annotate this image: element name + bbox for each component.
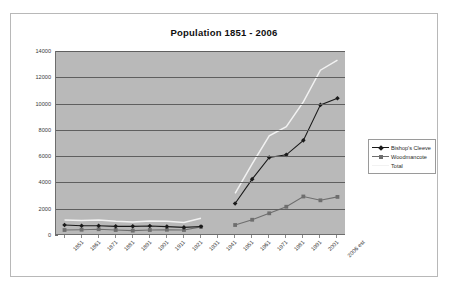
x-axis-tick-label: 1911 — [173, 239, 186, 252]
gridline — [56, 156, 345, 157]
legend-item[interactable]: Woodmancote — [372, 152, 431, 161]
y-axis-tick-label: 6000 — [39, 153, 51, 159]
x-axis-tick-label: 1981 — [293, 239, 306, 252]
y-axis-tick-label: 12000 — [35, 74, 51, 80]
legend-label: Woodmancote — [389, 154, 427, 160]
x-axis-tick-label: 1901 — [156, 239, 169, 252]
legend-item[interactable]: Total — [372, 161, 431, 170]
y-axis-labels: 02000400060008000100001200014000 — [17, 51, 51, 235]
x-axis-tick-label: 1931 — [208, 239, 221, 252]
y-axis-tick-label: 2000 — [39, 206, 51, 212]
x-axis-tick-mark — [98, 235, 99, 238]
gridline — [56, 182, 345, 183]
y-axis-tick-label: 0 — [48, 232, 51, 238]
chart-legend: Bishop's CleeveWoodmancoteTotal — [368, 139, 436, 174]
x-axis-tick-label: 1881 — [122, 239, 135, 252]
legend-label: Total — [389, 163, 403, 169]
y-axis-tick-label: 10000 — [35, 101, 51, 107]
x-axis-labels: 1851186118711881189119011911192119311941… — [55, 239, 345, 289]
x-axis-tick-label: 1961 — [259, 239, 272, 252]
x-axis-tick-mark — [132, 235, 133, 238]
y-axis-tick-label: 14000 — [35, 48, 51, 54]
x-axis-tick-label: 1941 — [225, 239, 238, 252]
legend-label: Bishop's Cleeve — [389, 145, 431, 151]
x-axis-tick-label: 1971 — [276, 239, 289, 252]
x-axis-tick-mark — [302, 235, 303, 238]
series-layer — [56, 51, 346, 235]
x-axis-tick-label: 1921 — [191, 239, 204, 252]
x-axis-tick-label: 1861 — [88, 239, 101, 252]
x-axis-tick-mark — [64, 235, 65, 238]
series-total — [65, 60, 338, 222]
x-axis-tick-mark — [336, 235, 337, 238]
x-axis-tick-mark — [234, 235, 235, 238]
y-axis-tick-label: 4000 — [39, 179, 51, 185]
x-axis-tick-label: 1951 — [242, 239, 255, 252]
x-axis-tick-mark — [285, 235, 286, 238]
x-axis-tick-mark — [200, 235, 201, 238]
y-axis-tick-label: 8000 — [39, 127, 51, 133]
legend-item[interactable]: Bishop's Cleeve — [372, 143, 431, 152]
x-axis-tick-label: 1851 — [71, 239, 84, 252]
x-axis-tick-mark — [183, 235, 184, 238]
x-axis-tick-label: 2001 — [327, 239, 340, 252]
legend-key-square-icon — [372, 152, 389, 161]
x-axis-tick-label: 1871 — [105, 239, 118, 252]
gridline — [56, 51, 345, 52]
x-axis-tick-mark — [251, 235, 252, 238]
x-axis-tick-label: 1891 — [139, 239, 152, 252]
plot-area — [55, 51, 345, 235]
gridline — [56, 77, 345, 78]
gridline — [56, 130, 345, 131]
x-axis-tick-label: 1991 — [310, 239, 323, 252]
gridline — [56, 104, 345, 105]
legend-key-none-icon — [372, 161, 389, 170]
x-axis-tick-mark — [149, 235, 150, 238]
x-axis-tick-mark — [115, 235, 116, 238]
x-axis-tick-mark — [81, 235, 82, 238]
x-axis-tick-mark — [217, 235, 218, 238]
x-axis-tick-mark — [166, 235, 167, 238]
gridline — [56, 209, 345, 210]
x-axis-tick-label: 2006 est — [347, 239, 366, 258]
x-axis-tick-mark — [268, 235, 269, 238]
x-axis-tick-mark — [319, 235, 320, 238]
chart-container: Population 1851 - 2006 02000400060008000… — [10, 13, 438, 277]
legend-key-diamond-icon — [372, 143, 389, 152]
